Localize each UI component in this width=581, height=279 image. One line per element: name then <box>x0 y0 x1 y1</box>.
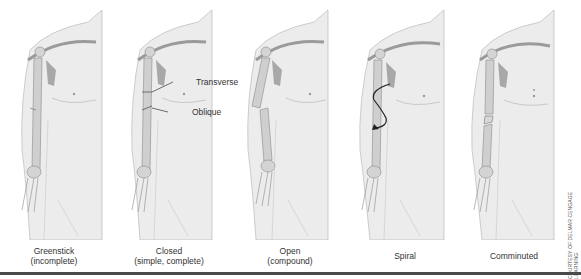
figure-closed: Transverse Oblique <box>118 0 234 240</box>
arm-illustration-closed <box>118 0 234 240</box>
callout-oblique: Oblique <box>192 107 221 117</box>
caption-spiral-label: Spiral <box>347 251 463 261</box>
caption-spiral: Spiral <box>347 251 463 261</box>
arm-illustration-greenstick <box>8 0 124 240</box>
caption-open-sublabel: (compound) <box>232 256 348 266</box>
caption-greenstick: Greenstick (incomplete) <box>0 246 112 266</box>
caption-comminuted: Comminuted <box>456 251 572 261</box>
caption-comminuted-label: Comminuted <box>456 251 572 261</box>
arm-illustration-comminuted <box>456 0 572 240</box>
caption-closed-label: Closed <box>111 246 227 256</box>
image-credit: COURTESY OF DELMAR CENGAGE LEARNING <box>567 178 579 279</box>
figure-greenstick <box>8 0 124 240</box>
caption-open: Open (compound) <box>232 246 348 266</box>
caption-open-label: Open <box>232 246 348 256</box>
bottom-divider <box>0 272 581 275</box>
caption-closed-sublabel: (simple, complete) <box>111 256 227 266</box>
arm-illustration-spiral <box>340 0 456 240</box>
figure-open <box>228 0 344 240</box>
caption-greenstick-label: Greenstick <box>0 246 112 256</box>
figure-spiral <box>340 0 456 240</box>
figure-comminuted <box>456 0 572 240</box>
arm-illustration-open <box>228 0 344 240</box>
caption-closed: Closed (simple, complete) <box>111 246 227 266</box>
caption-greenstick-sublabel: (incomplete) <box>0 256 112 266</box>
